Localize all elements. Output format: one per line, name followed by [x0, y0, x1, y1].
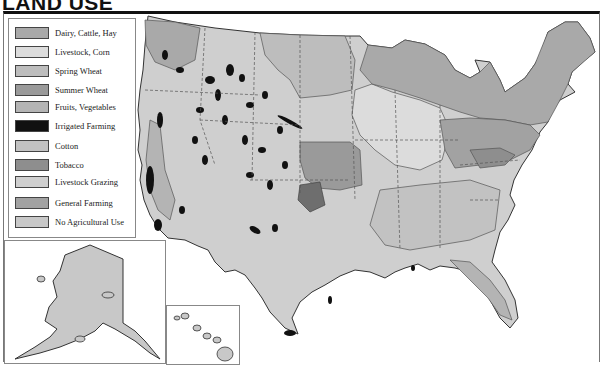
- legend-item-cotton: Cotton: [15, 140, 133, 152]
- legend-swatch: [15, 176, 49, 188]
- legend-item-summer-wheat: Summer Wheat: [15, 84, 133, 96]
- legend-swatch: [15, 46, 49, 58]
- alaska-shape: [5, 241, 165, 363]
- legend-label: Dairy, Cattle, Hay: [55, 29, 133, 38]
- legend-label: Cotton: [55, 142, 133, 151]
- legend-label: Spring Wheat: [55, 67, 133, 76]
- legend-item-no-agricultural-use: No Agricultural Use: [15, 216, 133, 228]
- hawaii-shape: [167, 306, 239, 364]
- legend-label: Livestock Grazing: [55, 178, 133, 187]
- legend-swatch: [15, 27, 49, 39]
- legend-label: No Agricultural Use: [55, 218, 133, 227]
- alaska-inset: [4, 240, 166, 364]
- legend-item-dairy: Dairy, Cattle, Hay: [15, 27, 133, 39]
- hawaii-inset: [166, 305, 240, 365]
- legend-label: Livestock, Corn: [55, 48, 133, 57]
- legend-label: General Farming: [55, 199, 133, 208]
- legend-swatch: [15, 140, 49, 152]
- legend-item-irrigated-farming: Irrigated Farming: [15, 120, 133, 132]
- legend-item-spring-wheat: Spring Wheat: [15, 65, 133, 77]
- legend-item-livestock-grazing: Livestock Grazing: [15, 176, 133, 188]
- legend-swatch: [15, 216, 49, 228]
- legend-swatch: [15, 101, 49, 113]
- legend-swatch: [15, 120, 49, 132]
- legend-label: Fruits, Vegetables: [55, 103, 133, 112]
- legend-swatch: [15, 159, 49, 171]
- legend-swatch: [15, 197, 49, 209]
- legend-item-tobacco: Tobacco: [15, 159, 133, 171]
- legend-label: Summer Wheat: [55, 86, 133, 95]
- legend-item-fruits-vegetables: Fruits, Vegetables: [15, 101, 133, 113]
- legend-swatch: [15, 84, 49, 96]
- legend-label: Irrigated Farming: [55, 122, 133, 131]
- legend-item-livestock-corn: Livestock, Corn: [15, 46, 133, 58]
- legend-item-general-farming: General Farming: [15, 197, 133, 209]
- legend-swatch: [15, 65, 49, 77]
- map-legend: Dairy, Cattle, Hay Livestock, Corn Sprin…: [8, 18, 136, 238]
- legend-label: Tobacco: [55, 161, 133, 170]
